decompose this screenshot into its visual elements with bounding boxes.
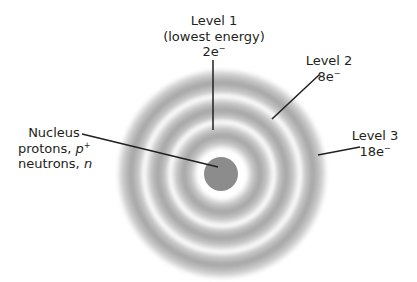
level-1-electrons: 2e− (160, 44, 268, 60)
nucleus-title: Nucleus (18, 125, 90, 141)
atom-energy-level-diagram: Level 1 (lowest energy) 2e− Level 2 8e− … (0, 0, 417, 282)
level-1-description: (lowest energy) (160, 29, 268, 45)
nucleus-protons: protons, p+ (18, 141, 90, 157)
level-3-name: Level 3 (349, 128, 401, 144)
level-3-electrons: 18e− (349, 144, 401, 160)
nucleus-neutrons: neutrons, n (18, 156, 90, 172)
level-1-name: Level 1 (160, 13, 268, 29)
level-2-label: Level 2 8e− (303, 53, 355, 84)
level-3-label: Level 3 18e− (349, 128, 401, 159)
nucleus-leader-line (82, 134, 218, 167)
level-2-name: Level 2 (303, 53, 355, 69)
level-2-electrons: 8e− (303, 69, 355, 85)
nucleus-label: Nucleus protons, p+ neutrons, n (18, 125, 90, 172)
level-1-label: Level 1 (lowest energy) 2e− (160, 13, 268, 60)
